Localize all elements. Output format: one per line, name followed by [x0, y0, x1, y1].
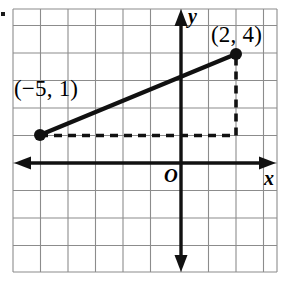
point-label-minus5-1: (−5, 1) [14, 77, 78, 100]
x-axis-label: x [264, 168, 274, 188]
y-axis-arrow-up-icon [175, 9, 188, 26]
y-axis [175, 9, 188, 272]
x-axis [14, 157, 276, 170]
origin-label: O [164, 166, 178, 185]
plotted-point-2-4 [230, 48, 242, 60]
point-label-2-4: (2, 4) [211, 23, 262, 46]
coordinate-plane-figure: (−5, 1) (2, 4) x y O [0, 0, 288, 297]
x-axis-arrow-left-icon [14, 157, 31, 170]
y-axis-arrow-down-icon [175, 255, 188, 272]
y-axis-label: y [188, 6, 197, 26]
plotted-point-minus5-1 [34, 129, 46, 141]
